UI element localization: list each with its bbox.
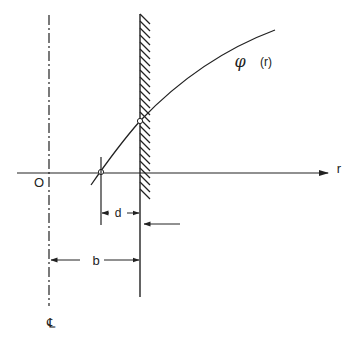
d-label: d [115,206,122,220]
phi-symbol: φ [234,52,246,71]
wall-intersection-marker [137,118,142,123]
b-label: b [92,253,99,268]
centerline-symbol: ℄ [46,315,56,330]
r-axis-label: r [337,161,342,176]
origin-label: O [34,175,44,190]
phi-curve [91,30,275,185]
wall-hatching [140,14,150,199]
diagram-canvas: d b O r φ (r) ℄ [0,0,356,341]
phi-argument: (r) [260,55,272,69]
